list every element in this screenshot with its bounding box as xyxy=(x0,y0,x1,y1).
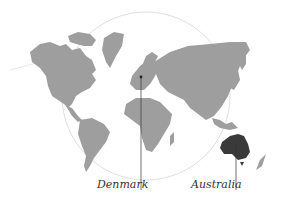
south-america xyxy=(78,118,110,172)
southeast-asia-islands xyxy=(212,118,238,130)
arctic-islands xyxy=(68,32,96,46)
australia-highlight xyxy=(220,134,250,160)
central-america xyxy=(66,106,82,122)
africa xyxy=(124,98,172,152)
tasmania xyxy=(240,162,244,166)
label-australia: Australia xyxy=(191,178,242,191)
north-america xyxy=(30,42,96,108)
new-zealand xyxy=(256,154,266,170)
label-denmark: Denmark xyxy=(97,178,148,191)
greenland xyxy=(102,32,124,68)
madagascar xyxy=(170,132,174,146)
world-map xyxy=(0,0,284,202)
